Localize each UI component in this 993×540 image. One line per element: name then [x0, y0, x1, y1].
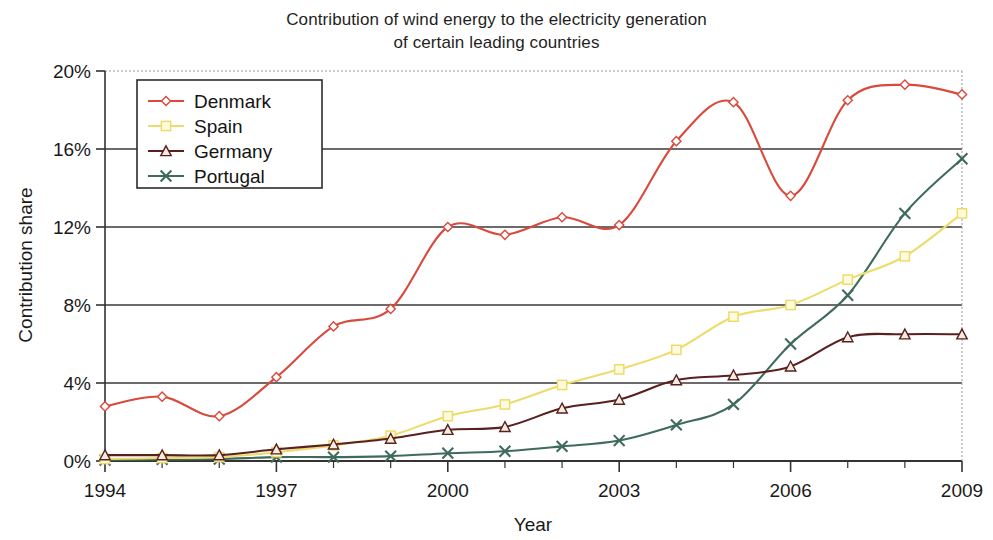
series-marker — [729, 312, 738, 321]
series-marker — [443, 412, 452, 421]
x-tick-label: 2006 — [769, 480, 811, 501]
series-marker — [786, 191, 795, 200]
wind-energy-line-chart: Contribution of wind energy to the elect… — [0, 0, 993, 540]
series-marker — [100, 402, 109, 411]
series-marker — [215, 412, 224, 421]
y-axis-title: Contribution share — [15, 187, 36, 342]
y-tick-label: 12% — [53, 217, 91, 238]
y-tick-label: 4% — [64, 373, 92, 394]
plot-area-svg: 0%4%8%12%16%20% 199419972000200320062009… — [0, 0, 993, 540]
legend-label: Germany — [194, 141, 273, 162]
series-marker — [158, 392, 167, 401]
series-marker — [843, 275, 852, 284]
series-marker — [500, 400, 509, 409]
series-marker — [900, 80, 909, 89]
legend-label: Portugal — [194, 166, 265, 187]
y-tick-label: 8% — [64, 295, 92, 316]
x-tick-labels-group: 199419972000200320062009 — [84, 480, 983, 501]
series-marker — [957, 209, 966, 218]
y-tick-label: 16% — [53, 139, 91, 160]
series-marker — [900, 252, 909, 261]
series-line — [105, 159, 962, 460]
x-tick-label: 1997 — [255, 480, 297, 501]
series-marker — [615, 365, 624, 374]
series-marker — [786, 300, 795, 309]
series-marker — [672, 345, 681, 354]
x-tick-label: 2009 — [941, 480, 983, 501]
x-tick-label: 2003 — [598, 480, 640, 501]
x-axis-title: Year — [514, 514, 553, 535]
y-tick-label: 20% — [53, 61, 91, 82]
y-tick-label: 0% — [64, 451, 92, 472]
chart-legend[interactable]: DenmarkSpainGermanyPortugal — [137, 80, 322, 188]
series-line — [105, 213, 962, 459]
series-marker — [557, 213, 566, 222]
series-spain — [100, 209, 966, 464]
x-tick-label: 1994 — [84, 480, 127, 501]
legend-label: Denmark — [194, 91, 272, 112]
y-tick-labels-group: 0%4%8%12%16%20% — [53, 61, 91, 472]
series-marker — [500, 230, 509, 239]
series-marker — [557, 380, 566, 389]
legend-label: Spain — [194, 116, 243, 137]
series-marker — [957, 90, 966, 99]
legend-swatch-marker — [161, 121, 170, 130]
x-tick-label: 2000 — [427, 480, 469, 501]
